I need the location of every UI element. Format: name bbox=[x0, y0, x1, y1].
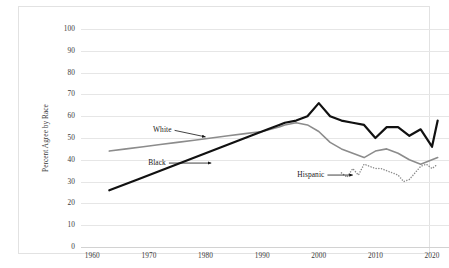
annotation-label-white: White bbox=[153, 127, 172, 134]
y-tick-label-100: 100 bbox=[64, 25, 75, 32]
x-tick-label-1980: 1980 bbox=[198, 252, 213, 259]
y-tick-label-10: 10 bbox=[68, 222, 76, 229]
y-axis-title: Percent Agree by Race bbox=[43, 104, 50, 172]
annotation-label-hispanic: Hispanic bbox=[297, 171, 324, 178]
gridline-0 bbox=[81, 247, 449, 248]
y-tick-label-20: 20 bbox=[68, 200, 76, 207]
x-tick-label-2010: 2010 bbox=[368, 252, 383, 259]
y-tick-label-60: 60 bbox=[68, 113, 76, 120]
series-line-hispanic bbox=[341, 164, 437, 181]
y-tick-label-30: 30 bbox=[68, 178, 76, 185]
series-layer bbox=[109, 103, 437, 190]
y-tick-label-90: 90 bbox=[68, 47, 76, 54]
x-tick-label-1960: 1960 bbox=[85, 252, 100, 259]
x-tick-label-1990: 1990 bbox=[255, 252, 270, 259]
series-line-black bbox=[109, 103, 437, 190]
annotation-arrow-white bbox=[175, 130, 206, 137]
y-tick-label-0: 0 bbox=[71, 243, 75, 250]
x-tick-label-2020: 2020 bbox=[425, 252, 440, 259]
chart-frame: Percent Agree by Race 010203040506070809… bbox=[18, 6, 430, 254]
annotation-label-black: Black bbox=[148, 159, 166, 166]
y-tick-label-50: 50 bbox=[68, 134, 76, 141]
x-tick-label-1970: 1970 bbox=[141, 252, 156, 259]
y-tick-label-80: 80 bbox=[68, 69, 76, 76]
y-tick-label-40: 40 bbox=[68, 156, 76, 163]
x-tick-label-2000: 2000 bbox=[311, 252, 326, 259]
plot-area: 0102030405060708090100 19601970198019902… bbox=[81, 29, 449, 247]
data-lines bbox=[81, 29, 449, 247]
y-tick-label-70: 70 bbox=[68, 91, 76, 98]
